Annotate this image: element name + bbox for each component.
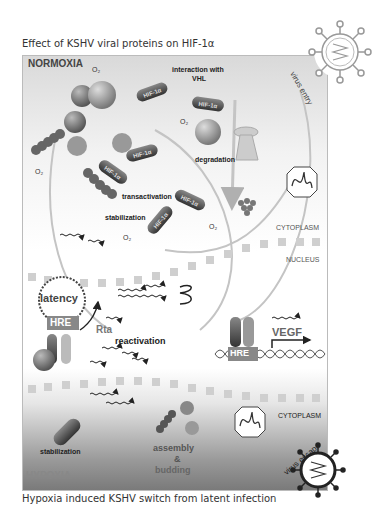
o2-label-5: O₂	[209, 223, 217, 230]
degradation-label: degradation	[195, 156, 235, 163]
hif1b-vertical-vegf	[243, 317, 254, 347]
lana-protein-2	[64, 111, 86, 133]
o2-label-4: O₂	[123, 234, 131, 241]
vegf-label: VEGF	[272, 326, 302, 338]
hif1a-pill-1: HIF-1α	[135, 81, 169, 103]
stabilization-label-bottom: stabilization	[40, 448, 80, 455]
cytoplasm-label-top: CYTOPLASM	[276, 224, 319, 231]
normoxia-label: NORMOXIA	[28, 58, 83, 69]
pathway-arcs	[50, 90, 310, 330]
hre-label-latent: HRE	[50, 317, 71, 328]
ampersand-label: &	[174, 454, 181, 464]
vfr3-protein-2	[112, 133, 132, 153]
hre-label-vegf: HRE	[230, 348, 249, 358]
hif1a-pill-2: HIF-1α	[191, 96, 224, 112]
o2-label-3: O₂	[35, 168, 43, 175]
o2-label-1: O₂	[92, 66, 100, 73]
hif1a-pill-5: HIF-1α	[173, 188, 207, 212]
proteasome	[234, 127, 258, 160]
o2-label-2: O₂	[180, 118, 188, 125]
lana-protein-3	[33, 349, 55, 371]
viral-genome-cytoplasm	[287, 167, 317, 197]
capsid-protein	[180, 401, 194, 415]
nucleus-label: NUCLEUS	[286, 256, 319, 263]
degraded-fragments	[238, 198, 256, 216]
gpcr-coil-1	[31, 129, 65, 155]
cytoplasm-label-bottom: CYTOPLASM	[278, 412, 321, 419]
assembly-label: assembly	[153, 443, 194, 453]
hif1a-pill-hypoxia	[51, 416, 84, 449]
hif1b-vertical-latent	[61, 334, 71, 364]
rta-label: Rta	[96, 324, 112, 335]
budding-label: budding	[155, 465, 191, 475]
vhl-protein-2	[195, 119, 221, 145]
transactivation-label: transactivation	[122, 193, 172, 200]
hypoxia-label: HYPOXIA	[26, 470, 71, 481]
latency-label: latency	[40, 292, 78, 304]
hif1a-pill-6: HIF-1α	[145, 204, 175, 236]
hif1a-vertical-vegf	[230, 317, 241, 347]
viral-genome-hypoxia	[235, 407, 265, 437]
vhl-protein	[88, 81, 116, 109]
virus-entry-particle	[309, 21, 371, 83]
gpcr-coil-3	[156, 410, 176, 433]
tegument-protein	[185, 421, 199, 435]
interaction-label: interaction with	[172, 66, 224, 73]
vfr3-protein	[67, 136, 87, 156]
transcription-start-arrow	[272, 340, 310, 348]
interaction-vhl-label: VHL	[192, 75, 206, 82]
reactivation-label: reactivation	[115, 336, 166, 346]
stabilization-label-top: stabilization	[105, 214, 145, 221]
nuclear-membrane-bottom	[28, 377, 320, 402]
viral-genome-nucleus	[180, 286, 191, 304]
figure-caption: Hypoxia induced KSHV switch from latent …	[22, 493, 276, 504]
